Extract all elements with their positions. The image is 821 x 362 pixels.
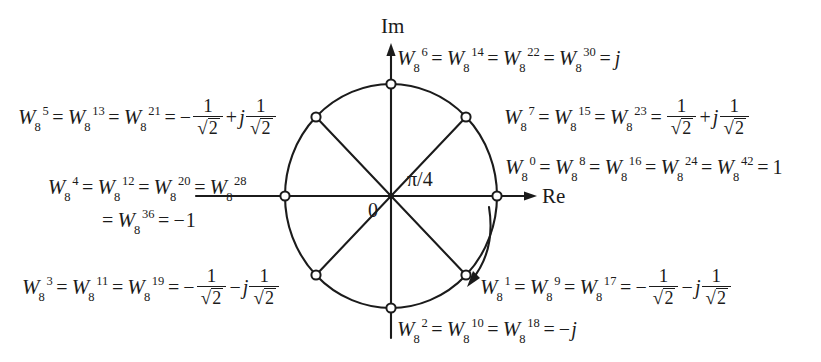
- label-w8-4-line1: W84=W812=W820=W828: [28, 176, 266, 202]
- node-w8-4: [280, 191, 289, 200]
- label-w8-7-group: W87=W815=W823=1√2+j1√2: [504, 96, 750, 137]
- angle-label: π/4: [407, 168, 433, 191]
- imaginary-axis-label: Im: [381, 14, 404, 39]
- origin-point: [388, 193, 394, 199]
- label-w8-0-group: W80=W88=W816=W824=W842=1: [505, 156, 783, 182]
- label-w8-3-group: W83=W811=W819=−1√2−j1√2: [22, 266, 280, 307]
- node-w8-2: [386, 303, 395, 312]
- node-w8-7: [461, 112, 470, 121]
- label-w8-1-group: W81=W89=W817=−1√2−j1√2: [480, 266, 732, 307]
- label-w8-5-group: W85=W813=W821=−1√2+j1√2: [18, 96, 277, 137]
- node-w8-0: [492, 191, 501, 200]
- node-w8-3: [311, 270, 320, 279]
- node-w8-1: [461, 270, 470, 279]
- imaginary-axis-arrowhead: [386, 43, 395, 56]
- label-w8-6-group: W86=W814=W822=W830=j: [397, 47, 621, 73]
- label-w8-4-group: W84=W812=W820=W828 =W836=−1: [28, 176, 266, 235]
- real-axis-arrowhead: [524, 191, 537, 200]
- origin-label: 0: [368, 199, 378, 222]
- node-w8-6: [386, 79, 395, 88]
- real-axis-label: Re: [542, 184, 565, 209]
- node-w8-5: [311, 112, 320, 121]
- figure-canvas: Im Re 0 π/4 W86=W814=W822=W830=j W85=W81…: [0, 0, 821, 362]
- label-w8-2-group: W82=W810=W818=−j: [397, 318, 577, 344]
- label-w8-4-line2: =W836=−1: [28, 209, 266, 235]
